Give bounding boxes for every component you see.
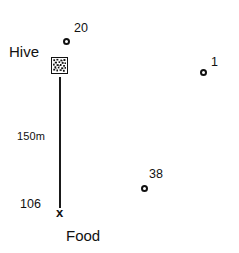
site-marker-38 bbox=[141, 185, 148, 192]
food-count-label: 106 bbox=[20, 198, 41, 211]
site-marker-1 bbox=[200, 69, 207, 76]
site-count-label-1: 1 bbox=[211, 56, 218, 69]
site-count-label-38: 38 bbox=[149, 168, 163, 181]
scale-bar-line bbox=[59, 77, 61, 208]
hive-marker bbox=[51, 57, 68, 74]
hive-label: Hive bbox=[9, 44, 39, 59]
bee-foraging-map-figure: 150m Hive bbox=[0, 0, 239, 253]
food-label: Food bbox=[66, 228, 100, 243]
scale-bar-label: 150m bbox=[17, 131, 45, 142]
site-count-label-20: 20 bbox=[74, 22, 88, 35]
food-marker: x bbox=[56, 206, 63, 219]
site-marker-20 bbox=[63, 38, 70, 45]
